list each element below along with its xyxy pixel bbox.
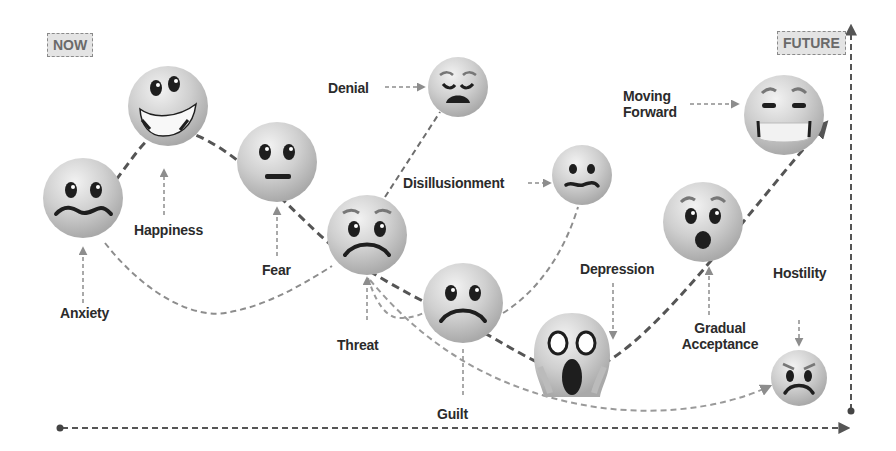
label-happiness: Happiness [134, 222, 203, 238]
label-anxiety: Anxiety [60, 305, 109, 321]
future-tag: FUTURE [777, 31, 846, 55]
guilt-to-disillusionment-curve [503, 207, 578, 313]
denial-face-icon [428, 57, 488, 117]
label-guilt: Guilt [437, 406, 468, 422]
label-forward: Forward [623, 104, 677, 120]
label-threat: Threat [337, 337, 379, 353]
depression-scream-face-icon [534, 313, 610, 397]
label-fear: Fear [262, 262, 291, 278]
label-moving: Moving [623, 88, 677, 104]
happiness-face-icon [128, 66, 208, 146]
label-depression: Depression [580, 261, 654, 277]
label-denial: Denial [328, 80, 369, 96]
fear-face-icon [237, 122, 317, 202]
disillusionment-face-icon [552, 145, 612, 205]
label-hostility: Hostility [773, 265, 826, 281]
hostility-angry-face-icon [771, 350, 827, 406]
moving-forward-face-icon [744, 75, 824, 155]
y-axis-origin-dot [848, 408, 855, 415]
label-gradual: Gradual [672, 320, 768, 336]
label-disillusionment: Disillusionment [403, 175, 504, 191]
guilt-face-icon [423, 263, 503, 343]
acceptance-surprised-face-icon [663, 182, 743, 262]
anxiety-to-threat-curve [105, 243, 332, 314]
threat-face-icon [327, 195, 407, 275]
label-acceptance: Acceptance [672, 336, 768, 352]
label-moving-forward: Moving Forward [623, 88, 677, 120]
anxiety-face-icon [43, 158, 123, 238]
now-tag: NOW [47, 33, 93, 57]
label-gradual-acceptance: Gradual Acceptance [672, 320, 768, 352]
x-axis-origin-dot [57, 425, 64, 432]
